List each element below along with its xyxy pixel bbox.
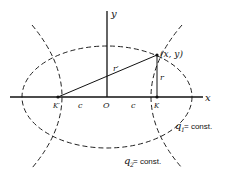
svg-text:= const.: = const. — [133, 157, 161, 166]
x-axis-label: x — [205, 92, 211, 103]
r-prime-label: r′ — [113, 64, 119, 73]
q2-label: q 2 = const. — [124, 155, 161, 168]
y-axis-label: y — [110, 8, 117, 19]
point-label: (x, y) — [160, 49, 183, 59]
r-label: r — [160, 73, 165, 82]
focus-left-point — [56, 95, 59, 98]
focus-right-label: K — [153, 102, 160, 110]
svg-text:= const.: = const. — [184, 122, 212, 131]
focus-left-label: K′ — [52, 102, 60, 110]
q1-label: q 1 = const. — [175, 120, 212, 133]
point-xy — [155, 53, 158, 56]
c-right-label: c — [131, 101, 136, 110]
c-left-label: c — [78, 101, 83, 110]
elliptic-coordinates-diagram: x y O (x, y) K′ K c c r r′ q 1 = const. … — [0, 0, 228, 177]
focus-right-point — [155, 95, 158, 98]
origin-label: O — [103, 101, 110, 110]
